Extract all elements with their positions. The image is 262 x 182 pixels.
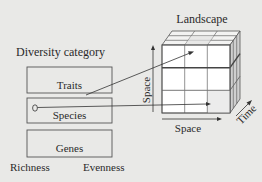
diversity-landscape-diagram: Diversity category Traits Species Genes … <box>0 0 262 182</box>
traits-label: Traits <box>57 79 82 91</box>
landscape-cube <box>162 31 240 113</box>
horizontal-space-axis: Space <box>162 117 222 134</box>
landscape-title: Landscape <box>176 12 227 26</box>
species-marker-icon <box>33 105 38 111</box>
traits-box: Traits <box>27 67 112 93</box>
genes-box: Genes <box>27 130 112 157</box>
vertical-space-label: Space <box>140 77 152 103</box>
richness-label: Richness <box>10 161 50 173</box>
diversity-category-heading: Diversity category <box>16 45 105 59</box>
horizontal-space-label: Space <box>175 122 201 134</box>
vertical-space-axis: Space <box>140 45 155 112</box>
species-label: Species <box>53 109 87 121</box>
species-box: Species <box>27 98 112 123</box>
time-axis: Time <box>234 100 259 126</box>
evenness-label: Evenness <box>83 161 125 173</box>
time-label: Time <box>234 102 259 127</box>
genes-label: Genes <box>56 142 84 154</box>
